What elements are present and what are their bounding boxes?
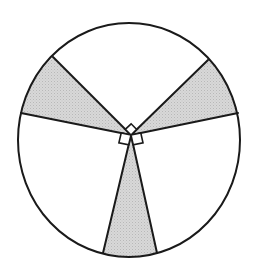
right-angle-marker-lower-right [131, 133, 143, 145]
circle-sector-diagram [0, 0, 257, 268]
right-angle-marker-lower-left [119, 133, 131, 145]
shaded-sector-bottom [103, 135, 157, 257]
